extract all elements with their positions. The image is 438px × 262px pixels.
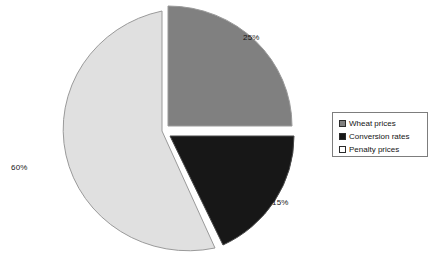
slice-value-label-wheat-prices: 25% <box>243 33 260 42</box>
legend-swatch-icon-wheat-prices <box>339 120 346 127</box>
pie-slice-wheat-prices <box>168 6 292 126</box>
legend-label-penalty-prices: Penalty prices <box>349 145 399 154</box>
legend-label-wheat-prices: Wheat prices <box>349 119 396 128</box>
legend-item-penalty-prices: Penalty prices <box>339 143 427 155</box>
chart-legend: Wheat prices Conversion rates Penalty pr… <box>332 112 428 157</box>
legend-swatch-icon-penalty-prices <box>339 146 346 153</box>
legend-item-wheat-prices: Wheat prices <box>339 117 427 129</box>
pie-chart: 25% 15% 60% Wheat prices Conversion rate… <box>0 0 438 262</box>
legend-label-conversion-rates: Conversion rates <box>349 132 409 141</box>
legend-swatch-icon-conversion-rates <box>339 133 346 140</box>
slice-value-label-conversion-rates: 15% <box>272 198 289 207</box>
slice-value-label-penalty-prices: 60% <box>11 163 28 172</box>
legend-item-conversion-rates: Conversion rates <box>339 130 427 142</box>
